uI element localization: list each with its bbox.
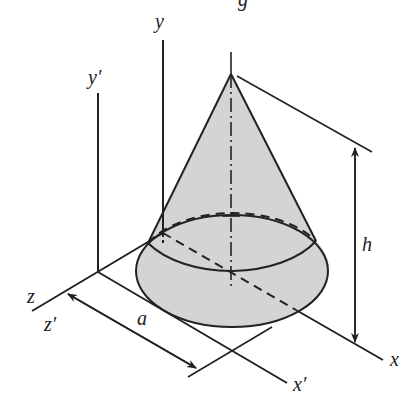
label-title-fragment: g — [238, 0, 248, 11]
label-x: x — [389, 348, 399, 370]
label-y-prime: y′ — [86, 66, 102, 89]
label-a: a — [137, 307, 147, 329]
label-z-prime: z′ — [43, 313, 57, 335]
x-axis — [296, 310, 383, 360]
label-y: y — [153, 10, 164, 33]
label-x-prime: x′ — [292, 373, 307, 395]
label-z: z — [26, 285, 35, 307]
cone-diagram: g y y′ z z′ a h x x′ — [0, 0, 411, 404]
label-h: h — [362, 233, 372, 255]
